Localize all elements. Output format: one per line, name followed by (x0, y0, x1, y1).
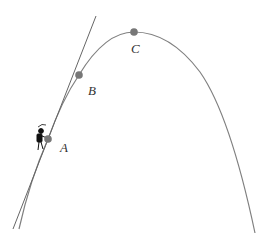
point-c (130, 28, 138, 36)
label-b: B (88, 83, 96, 98)
point-a (44, 135, 52, 143)
label-c: C (131, 41, 140, 56)
point-b (75, 71, 83, 79)
diagram: A B C (0, 0, 268, 239)
parabola-curve (19, 32, 255, 233)
diagram-canvas: A B C (0, 0, 268, 239)
tangent-line (13, 16, 96, 229)
label-a: A (59, 140, 68, 155)
